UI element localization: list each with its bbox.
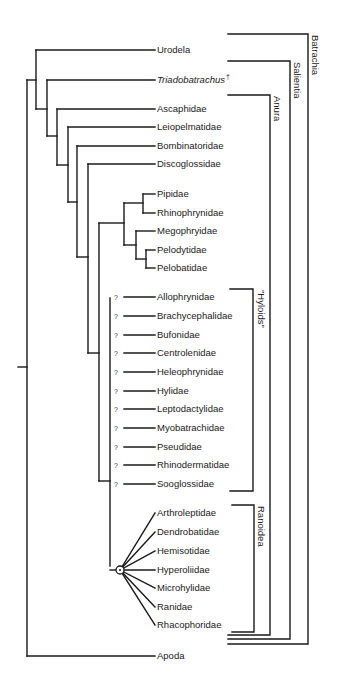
uncertain-placement-icon: ? <box>114 369 118 376</box>
taxon-label: Leptodactylidae <box>157 403 224 414</box>
taxon-label: Bufonidae <box>157 329 200 340</box>
taxon-label: Apoda <box>157 650 185 661</box>
uncertain-placement-icon: ? <box>114 294 118 301</box>
uncertain-placement-icon: ? <box>114 388 118 395</box>
cladogram: UrodelaTriadobatrachus†AscaphidaeLeiopel… <box>0 0 339 692</box>
radiating-branch <box>120 513 155 570</box>
uncertain-placement-icon: ? <box>114 444 118 451</box>
taxon-label: Urodela <box>157 44 191 55</box>
uncertain-placement-icon: ? <box>114 313 118 320</box>
taxon-label: Ranidae <box>157 601 192 612</box>
taxon-label: Rhinodermatidae <box>157 459 229 470</box>
taxon-label: Sooglossidae <box>157 478 214 489</box>
taxon-label: Rhinophrynidae <box>157 207 224 218</box>
clade-bracket <box>228 34 308 644</box>
taxon-label: Bombinatoridae <box>157 140 224 151</box>
taxon-label: Myobatrachidae <box>157 422 225 433</box>
clade-label: Ranoidea <box>256 506 267 547</box>
taxon-label: Centrolenidae <box>157 347 216 358</box>
taxon-label: Dendrobatidae <box>157 526 219 537</box>
clade-label: Salientia <box>292 62 303 99</box>
clade-bracket <box>232 505 254 632</box>
taxon-label: Pseudidae <box>157 441 202 452</box>
taxon-label: Pipidae <box>157 188 189 199</box>
taxon-label: Heleophrynidae <box>157 366 224 377</box>
clade-bracket <box>228 95 270 635</box>
clade-label: Anura <box>272 96 283 122</box>
taxon-label: Allophrynidae <box>157 291 215 302</box>
clade-brackets: "Hyloids"RanoideaAnuraSalientiaBatrachia <box>228 34 321 644</box>
taxon-label: Ascaphidae <box>157 103 207 114</box>
taxon-label: Discoglossidae <box>157 158 221 169</box>
uncertain-placement-icon: ? <box>114 332 118 339</box>
clade-label: "Hyloids" <box>256 290 267 328</box>
taxon-label: Brachycephalidae <box>157 310 233 321</box>
taxon-label: Rhacophoridae <box>157 619 221 630</box>
clade-label: Batrachia <box>310 35 321 76</box>
uncertain-placement-icon: ? <box>114 350 118 357</box>
taxon-label: Hemisotidae <box>157 545 210 556</box>
taxon-label: Triadobatrachus† <box>157 73 230 85</box>
polytomy-node-icon <box>116 566 124 574</box>
uncertain-placement-icon: ? <box>114 425 118 432</box>
taxon-labels: UrodelaTriadobatrachus†AscaphidaeLeiopel… <box>27 44 233 661</box>
radiating-branch <box>120 532 155 570</box>
taxon-label: Pelobatidae <box>157 262 207 273</box>
taxon-label: Arthroleptidae <box>157 507 216 518</box>
taxon-label: Microhylidae <box>157 582 210 593</box>
taxon-label: Megophryidae <box>157 225 217 236</box>
polytomy-dot <box>119 569 121 571</box>
clade-bracket <box>230 289 253 491</box>
taxon-label: Hyperoliidae <box>157 564 210 575</box>
taxon-label: Hylidae <box>157 385 189 396</box>
radiating-branch <box>120 570 155 607</box>
uncertain-placement-icon: ? <box>114 406 118 413</box>
uncertain-placement-icon: ? <box>114 481 118 488</box>
uncertain-placement-icon: ? <box>114 462 118 469</box>
taxon-label: Leiopelmatidae <box>157 121 221 132</box>
taxon-label: Pelodytidae <box>157 244 207 255</box>
clade-bracket <box>228 61 290 639</box>
